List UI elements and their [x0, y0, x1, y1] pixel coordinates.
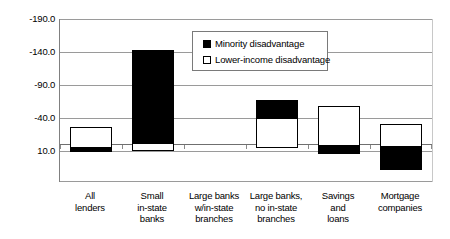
- bar-segment-lower-income: [70, 127, 112, 148]
- x-axis-label-line: companies: [369, 202, 431, 214]
- x-axis-label-small-in-state-banks: Small in-state banks: [121, 190, 183, 225]
- bar-group-all-lenders: [70, 19, 112, 182]
- gridline-10: [60, 151, 432, 152]
- bar-segment-lower-income: [318, 106, 360, 146]
- x-axis-label-large-banks-no-in-state-branches: Large banks, no in-state branches: [245, 190, 307, 225]
- bar-segment-minority: [380, 147, 422, 170]
- x-axis-label-line: branches: [183, 213, 245, 225]
- x-axis-label-line: branches: [245, 213, 307, 225]
- plot-bottom-edge: [60, 181, 432, 182]
- x-axis-label-line: Small: [121, 190, 183, 202]
- x-axis-label-line: Savings: [307, 190, 369, 202]
- x-axis-minor-ticks: [60, 145, 432, 149]
- bar-segment-lower-income: [256, 118, 298, 148]
- y-axis-tick-label: -40.0: [3, 113, 55, 123]
- minor-tick: [308, 145, 309, 149]
- bar-group-small-in-state-banks: [132, 19, 174, 182]
- x-axis-label-line: loans: [307, 213, 369, 225]
- minor-tick: [60, 145, 61, 149]
- x-axis-label-line: and: [307, 202, 369, 214]
- bar-segment-minority: [318, 146, 360, 154]
- bar-segment-lower-income: [380, 124, 422, 147]
- x-axis-label-line: Large banks,: [245, 190, 307, 202]
- bar-group-mortgage-companies: [380, 19, 422, 182]
- x-axis-label-line: Large banks: [183, 190, 245, 202]
- minor-tick: [184, 145, 185, 149]
- legend-swatch-filled-square-icon: [203, 40, 211, 48]
- x-axis-label-line: Mortgage: [369, 190, 431, 202]
- legend-label: Lower-income disadvantage: [215, 55, 330, 65]
- x-axis-label-line: banks: [121, 213, 183, 225]
- bar-segment-minority: [70, 148, 112, 152]
- x-axis-label-line: in-state: [121, 202, 183, 214]
- bar-chart: -190.0 -140.0 -90.0 -40.0 10.0: [0, 0, 450, 239]
- x-axis-label-all-lenders: All lenders: [59, 190, 121, 213]
- minor-tick: [431, 145, 432, 149]
- y-axis-tick-label: -90.0: [3, 80, 55, 90]
- y-axis-tick-label: 10.0: [3, 146, 55, 156]
- x-axis-label-line: no in-state: [245, 202, 307, 214]
- legend-item-minority: Minority disadvantage: [203, 36, 327, 51]
- chart-legend: Minority disadvantage Lower-income disad…: [192, 31, 328, 71]
- x-axis-label-line: w/in-state: [183, 202, 245, 214]
- gridline-90: [60, 85, 432, 86]
- x-axis-label-line: All: [59, 190, 121, 202]
- minor-tick: [370, 145, 371, 149]
- x-axis-label-savings-and-loans: Savings and loans: [307, 190, 369, 225]
- x-axis-label-mortgage-companies: Mortgage companies: [369, 190, 431, 213]
- legend-swatch-hollow-square-icon: [203, 56, 211, 64]
- x-axis: All lenders Small in-state banks Large b…: [59, 190, 431, 238]
- bar-segment-minority: [132, 50, 174, 143]
- bar-segment-lower-income: [132, 143, 174, 151]
- y-axis-tick-label: -190.0: [3, 14, 55, 24]
- y-axis: -190.0 -140.0 -90.0 -40.0 10.0: [0, 0, 55, 239]
- minor-tick: [122, 145, 123, 149]
- x-axis-label-large-banks-with-in-state-branches: Large banks w/in-state branches: [183, 190, 245, 225]
- y-axis-tick-label: -140.0: [3, 47, 55, 57]
- bar-segment-minority: [256, 100, 298, 118]
- gridline-190: [60, 19, 432, 20]
- legend-item-lower-income: Lower-income disadvantage: [203, 52, 327, 67]
- minor-tick: [246, 145, 247, 149]
- x-axis-label-line: lenders: [59, 202, 121, 214]
- legend-label: Minority disadvantage: [215, 39, 304, 49]
- gridline-40: [60, 118, 432, 119]
